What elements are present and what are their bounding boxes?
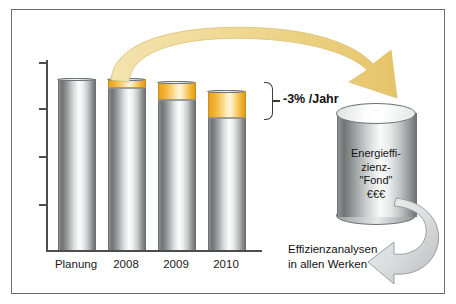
reduction-bracket-stem [273, 100, 280, 102]
fund-label-line1: Energieffi- [337, 147, 415, 161]
y-axis-tick [39, 62, 48, 64]
slide-root: Stromkontingent (MWh) Planung [0, 0, 456, 304]
bar-top-ellipse [57, 78, 95, 81]
bar-body-metal [208, 118, 246, 250]
fund-label-line2: zienz- [337, 161, 415, 175]
bar-body-metal [58, 79, 96, 250]
y-axis-tick [39, 108, 48, 110]
y-axis-tick [39, 156, 48, 158]
bar-segment-divider [208, 117, 245, 118]
fund-label: Energieffi- zienz- "Fond" €€€ [337, 147, 415, 201]
caption-line1: Effizienzanalysen [288, 242, 377, 257]
bar-body-metal [158, 100, 196, 250]
x-axis-line [46, 250, 262, 252]
gold-flow-arrow-icon [105, 20, 435, 100]
y-axis-tick [39, 204, 48, 206]
efficiency-analysis-caption: Effizienzanalysen in allen Werken [288, 242, 377, 271]
cylinder-top-ellipse [336, 103, 416, 124]
fund-label-euro: €€€ [337, 188, 415, 202]
fund-label-line3: "Fond" [337, 174, 415, 188]
bar-body-metal [108, 88, 146, 250]
caption-line2: in allen Werken [288, 257, 377, 272]
x-axis-label-2010: 2010 [191, 258, 261, 270]
